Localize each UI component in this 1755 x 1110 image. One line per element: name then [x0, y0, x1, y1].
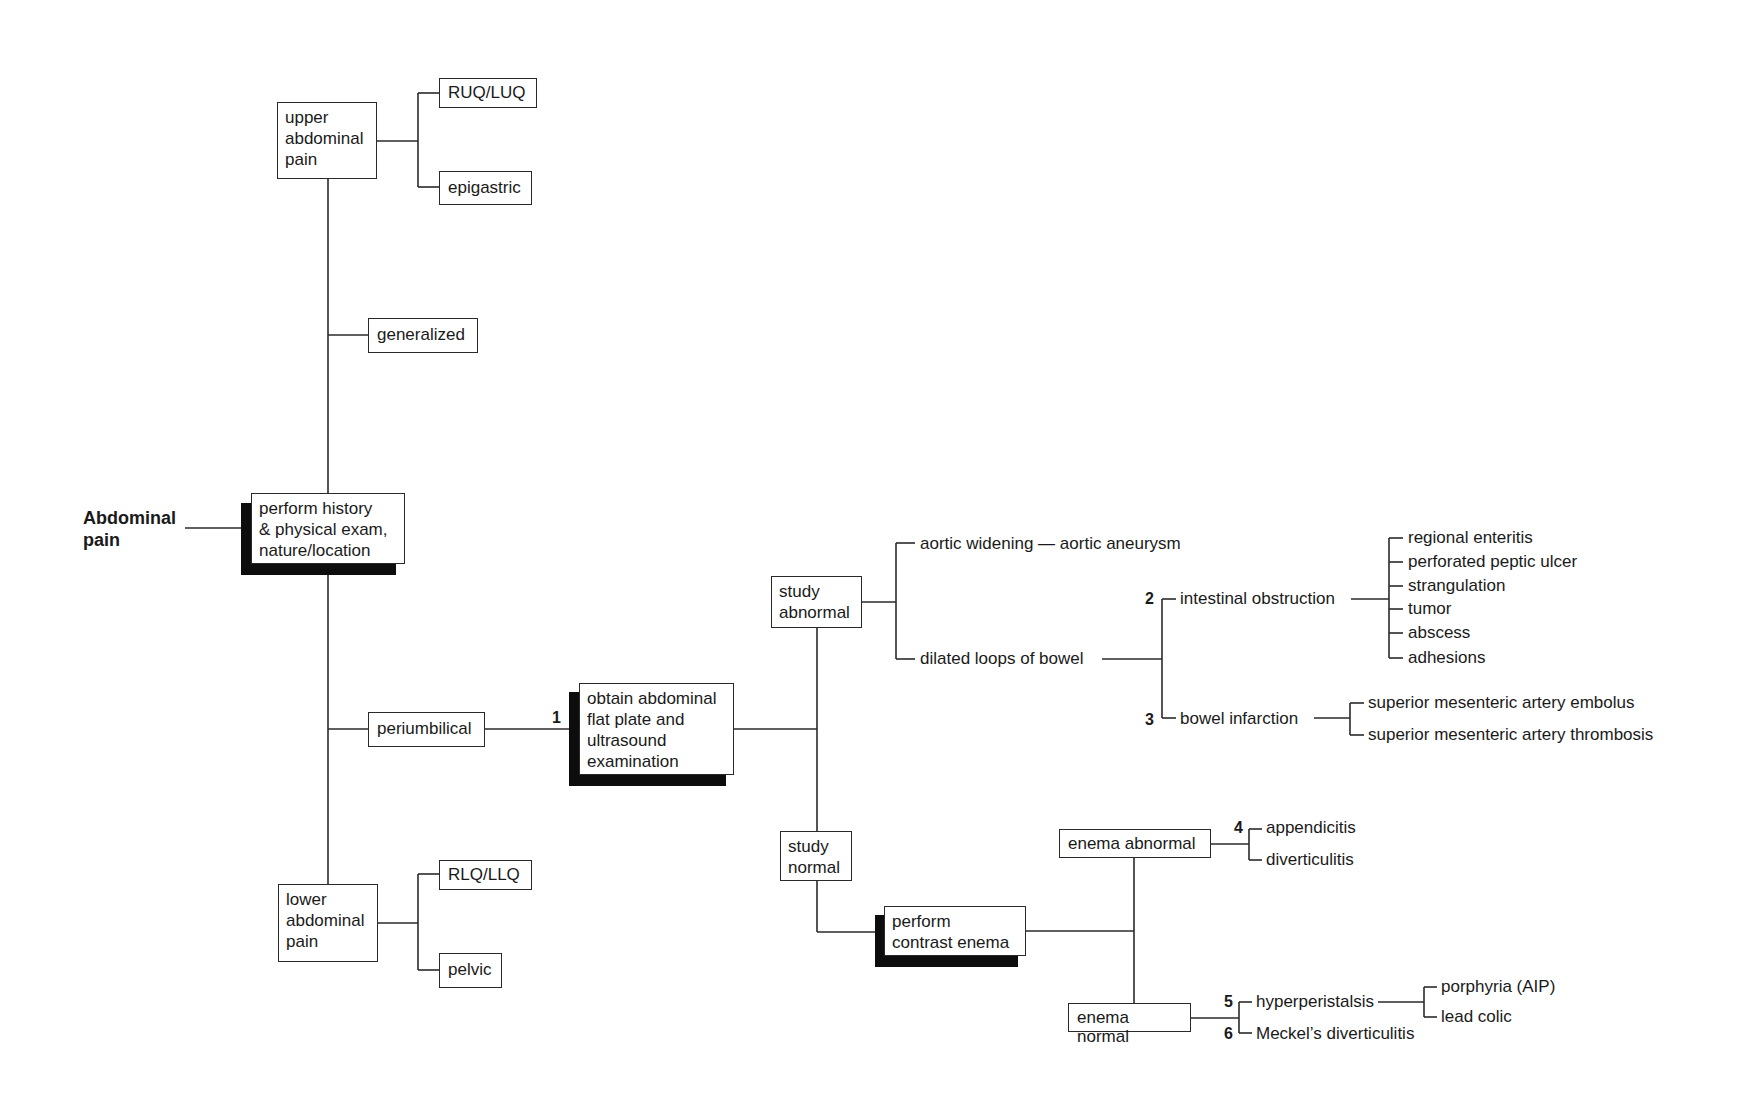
- enema-abnormal-node: enema abnormal: [1059, 829, 1211, 858]
- ruq-luq-node: RUQ/LUQ: [439, 78, 537, 108]
- history-physical-exam-node: perform history & physical exam, nature/…: [251, 493, 405, 564]
- periumbilical-node: periumbilical: [368, 712, 485, 747]
- meckels-diverticulitis-label: Meckel’s diverticulitis: [1256, 1024, 1414, 1044]
- step-number-5: 5: [1224, 992, 1233, 1012]
- lower-abdominal-pain-node: lower abdominal pain: [278, 884, 378, 962]
- cause-porphyria: porphyria (AIP): [1441, 977, 1555, 997]
- step-number-1: 1: [552, 708, 561, 728]
- hyperperistalsis-label: hyperperistalsis: [1256, 992, 1374, 1012]
- intestinal-obstruction-label: intestinal obstruction: [1180, 589, 1335, 609]
- study-abnormal-node: study abnormal: [771, 576, 862, 628]
- step-number-3: 3: [1145, 710, 1154, 730]
- bowel-infarction-label: bowel infarction: [1180, 709, 1298, 729]
- perform-contrast-enema-node: perform contrast enema: [884, 906, 1026, 956]
- rlq-llq-node: RLQ/LLQ: [439, 860, 532, 890]
- result-appendicitis: appendicitis: [1266, 818, 1356, 838]
- cause-perforated-peptic-ulcer: perforated peptic ulcer: [1408, 552, 1577, 572]
- step-number-6: 6: [1224, 1024, 1233, 1044]
- cause-sma-thrombosis: superior mesenteric artery thrombosis: [1368, 725, 1653, 745]
- pelvic-node: pelvic: [439, 953, 502, 988]
- dilated-loops-label: dilated loops of bowel: [920, 649, 1084, 669]
- cause-adhesions: adhesions: [1408, 648, 1486, 668]
- cause-abscess: abscess: [1408, 623, 1470, 643]
- step-number-2: 2: [1145, 589, 1154, 609]
- generalized-node: generalized: [368, 318, 478, 353]
- cause-lead-colic: lead colic: [1441, 1007, 1512, 1027]
- aortic-widening-label: aortic widening — aortic aneurysm: [920, 534, 1181, 554]
- cause-strangulation: strangulation: [1408, 576, 1505, 596]
- result-diverticulitis: diverticulitis: [1266, 850, 1354, 870]
- cause-regional-enteritis: regional enteritis: [1408, 528, 1533, 548]
- obtain-flat-plate-ultrasound-node: obtain abdominal flat plate and ultrasou…: [579, 683, 734, 775]
- enema-normal-node: enema normal: [1068, 1003, 1191, 1032]
- cause-tumor: tumor: [1408, 599, 1451, 619]
- step-number-4: 4: [1234, 818, 1243, 838]
- cause-sma-embolus: superior mesenteric artery embolus: [1368, 693, 1634, 713]
- epigastric-node: epigastric: [439, 171, 532, 205]
- study-normal-node: study normal: [780, 831, 852, 881]
- upper-abdominal-pain-node: upper abdominal pain: [277, 102, 377, 179]
- diagram-title: Abdominal pain: [83, 507, 176, 551]
